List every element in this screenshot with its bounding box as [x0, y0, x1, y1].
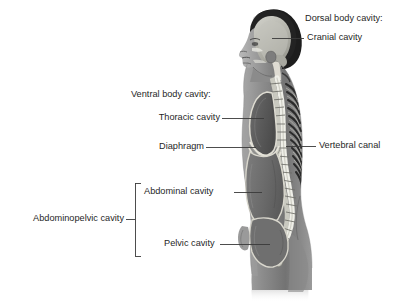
label-diaphragm[interactable]: Diaphragm: [144, 141, 204, 152]
label-abdominal-cavity[interactable]: Abdominal cavity: [144, 186, 213, 197]
label-dorsal-body-cavity-heading: Dorsal body cavity:: [305, 13, 383, 24]
body-cavities-figure: Dorsal body cavity: Cranial cavity Verte…: [0, 0, 408, 302]
label-vertebral-canal[interactable]: Vertebral canal: [319, 140, 380, 151]
arm-stub: [238, 226, 250, 250]
anatomy-illustration: [0, 0, 408, 302]
label-cranial-cavity[interactable]: Cranial cavity: [307, 32, 362, 43]
label-pelvic-cavity[interactable]: Pelvic cavity: [164, 238, 215, 249]
label-thoracic-cavity[interactable]: Thoracic cavity: [148, 112, 220, 123]
label-abdominopelvic-cavity[interactable]: Abdominopelvic cavity: [10, 213, 124, 224]
label-ventral-body-cavity-heading: Ventral body cavity:: [131, 89, 211, 100]
abdominal-cavity: [246, 152, 285, 225]
